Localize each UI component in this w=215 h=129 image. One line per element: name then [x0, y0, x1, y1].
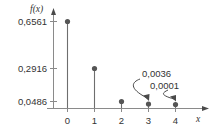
stem-series — [65, 19, 178, 108]
annotation-label-0001: 0,0001 — [150, 80, 179, 91]
stem-marker-2 — [119, 99, 124, 104]
x-axis-arrowhead — [202, 106, 209, 111]
stem-marker-0 — [65, 19, 70, 24]
stem-marker-1 — [92, 66, 97, 71]
x-tick-label-1: 1 — [92, 115, 97, 126]
x-tick-label-0: 0 — [65, 115, 70, 126]
x-tick-label-4: 4 — [173, 115, 178, 126]
stem-marker-4 — [173, 102, 178, 107]
annotation-arrowhead-0036 — [143, 94, 150, 101]
x-axis-label: x — [195, 114, 201, 124]
x-tick-label-2: 2 — [119, 115, 124, 126]
stem-plot: f(x) x 0,6561 0,2916 0,0486 0 1 2 3 4 — [0, 0, 215, 129]
annotation-label-0036: 0,0036 — [142, 68, 171, 79]
annotation-0001: 0,0001 — [150, 80, 179, 102]
chart-figure: f(x) x 0,6561 0,2916 0,0486 0 1 2 3 4 — [0, 0, 215, 129]
x-tick-label-3: 3 — [146, 115, 151, 126]
stem-marker-3 — [146, 101, 151, 106]
y-tick-label-2: 0,0486 — [18, 96, 47, 107]
y-axis-arrowhead — [51, 8, 56, 15]
y-tick-label-1: 0,2916 — [18, 63, 47, 74]
y-axis-label: f(x) — [30, 4, 43, 15]
y-tick-label-0: 0,6561 — [18, 16, 47, 27]
